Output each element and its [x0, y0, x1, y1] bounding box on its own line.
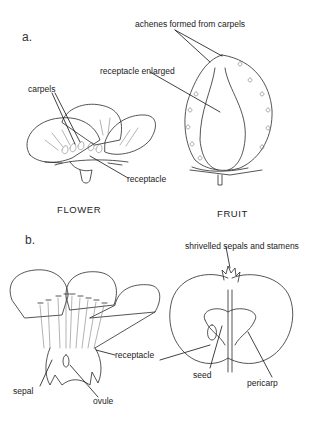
flower-b-drawing	[10, 270, 160, 385]
label-seed: seed	[193, 370, 211, 380]
panel-label-a: a.	[22, 30, 32, 44]
flower-a-drawing	[27, 104, 156, 183]
label-ovule: ovule	[93, 396, 113, 406]
panel-label-b: b.	[25, 233, 35, 247]
label-receptacle-b: receptacle	[115, 350, 154, 360]
label-receptacle-enlarged: receptacle enlarged	[100, 66, 175, 76]
label-sepal: sepal	[13, 386, 33, 396]
diagram-drawing	[0, 0, 310, 424]
caption-fruit: FRUIT	[217, 208, 248, 219]
label-receptacle-a: receptacle	[127, 174, 166, 184]
caption-flower: FLOWER	[57, 204, 101, 215]
label-carpels: carpels	[28, 84, 55, 94]
fruit-a-drawing	[185, 55, 272, 185]
label-pericarp: pericarp	[247, 378, 278, 388]
label-achenes: achenes formed from carpels	[135, 19, 245, 29]
fruit-b-drawing	[170, 266, 293, 372]
label-shrivelled: shrivelled sepals and stamens	[185, 241, 299, 251]
